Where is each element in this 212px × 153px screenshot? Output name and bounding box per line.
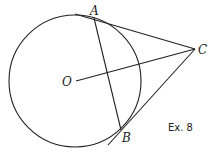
geometry-diagram: A C O B Ex. 8 xyxy=(0,0,212,153)
circle-o xyxy=(9,15,141,147)
label-a: A xyxy=(89,4,99,18)
tangent-line-a xyxy=(75,14,195,49)
chord-ab xyxy=(94,18,121,130)
caption: Ex. 8 xyxy=(168,122,193,133)
label-o: O xyxy=(62,75,72,89)
label-c: C xyxy=(198,43,207,57)
label-b: B xyxy=(121,131,131,145)
